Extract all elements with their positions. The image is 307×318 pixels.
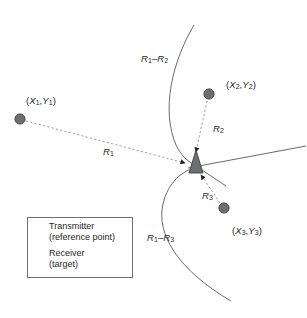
- hyperbola-r1-r3-label: R1–R3: [147, 233, 174, 244]
- hyperbola-r1-r2-label: R1–R2: [141, 54, 168, 65]
- legend-item-receiver-title: Receiver: [49, 248, 85, 260]
- transmitter-1-marker: [15, 114, 25, 124]
- legend-item-transmitter-subtitle: (reference point): [49, 232, 115, 244]
- ray-r2: [196, 101, 207, 152]
- range-r3-label: R3: [202, 191, 213, 202]
- range-r1-label: R1: [103, 147, 114, 158]
- transmitter-3-marker: [219, 203, 229, 213]
- asymptote-line-right: [188, 146, 306, 168]
- range-r2-label: R2: [213, 124, 224, 135]
- receiver-triangle-marker: [189, 150, 203, 173]
- asymptote-line-stub: [199, 168, 226, 186]
- transmitter-1-label: (X1,Y1): [26, 96, 56, 107]
- transmitter-2-label: (X2,Y2): [226, 80, 256, 91]
- transmitter-2-marker: [204, 89, 214, 99]
- tdoa-positioning-figure: (X1,Y1) (X2,Y2) (X3,Y3) R1 R2 R3 R1–R2 R…: [0, 0, 307, 318]
- legend-item-transmitter-title: Transmitter: [49, 221, 94, 233]
- hyperbola-curve-r1-r2: [169, 25, 194, 164]
- transmitter-3-label: (X3,Y3): [232, 226, 262, 237]
- legend-item-receiver-subtitle: (target): [49, 259, 78, 271]
